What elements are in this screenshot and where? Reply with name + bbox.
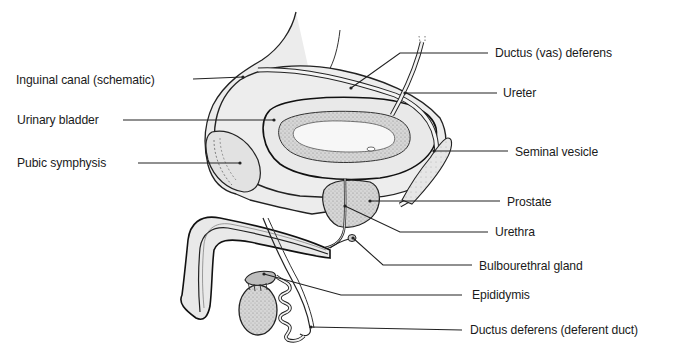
urinary-bladder-shape: [263, 97, 436, 179]
leader-bulbourethral-gland: [353, 238, 472, 265]
label-pubic-symphysis: Pubic symphysis: [17, 155, 106, 171]
label-bulbourethral-gland: Bulbourethral gland: [479, 258, 583, 274]
label-urinary-bladder: Urinary bladder: [17, 112, 99, 128]
prostate-shape: [323, 180, 380, 227]
leader-ductus-deferens-duct: [311, 327, 462, 330]
epididymis-coil: [276, 276, 304, 341]
label-epididymis: Epididymis: [472, 287, 530, 303]
label-inguinal-canal: Inguinal canal (schematic): [16, 72, 155, 88]
label-ureter: Ureter: [503, 85, 536, 101]
label-urethra: Urethra: [495, 224, 535, 240]
label-seminal-vesicle: Seminal vesicle: [515, 144, 598, 160]
label-ductus-deferens-duct: Ductus deferens (deferent duct): [470, 322, 638, 338]
label-ductus-vas-deferens: Ductus (vas) deferens: [495, 45, 612, 61]
label-prostate: Prostate: [507, 194, 552, 210]
leader-epididymis: [264, 274, 462, 295]
testis-shape: [239, 271, 277, 335]
